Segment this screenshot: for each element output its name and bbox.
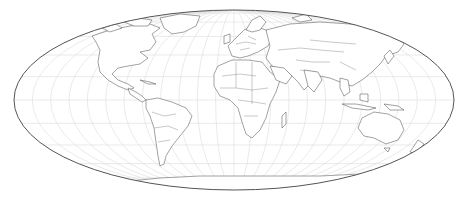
greenland [160,14,200,34]
australia [358,112,404,144]
uk [224,34,230,44]
world-map [0,0,468,202]
new-guinea [384,104,404,110]
indonesia [342,104,376,110]
north-america [92,24,160,90]
africa [214,60,280,138]
south-america [146,98,192,166]
borneo [360,94,368,102]
cuba [140,80,156,84]
madagascar [282,112,286,128]
